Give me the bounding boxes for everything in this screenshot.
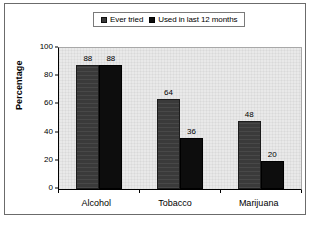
x-label-marijuana: Marijuana <box>239 198 279 208</box>
bar-marijuana-used-last-12-months[interactable]: 20 <box>261 161 284 189</box>
bar-value-marijuana-ever-tried: 48 <box>245 110 254 119</box>
bar-wrap-alcohol-used-last-12-months: 88 <box>99 48 122 189</box>
y-tick-label-60: 60 <box>44 99 53 107</box>
y-axis: Percentage 100 80 60 40 20 0 <box>5 40 58 198</box>
bar-wrap-tobacco-ever-tried: 64 <box>157 48 180 189</box>
legend-swatch-used-last-12-months <box>149 17 155 23</box>
y-tick-label-100: 100 <box>40 43 53 51</box>
y-axis-title: Percentage <box>14 60 24 110</box>
x-tick-mark-1 <box>139 190 140 193</box>
bar-marijuana-ever-tried[interactable]: 48 <box>238 121 261 189</box>
bar-wrap-marijuana-ever-tried: 48 <box>238 48 261 189</box>
bar-group-alcohol: 88 88 <box>76 48 122 189</box>
bar-group-marijuana: 48 20 <box>238 48 284 189</box>
bar-tobacco-used-last-12-months[interactable]: 36 <box>180 138 203 189</box>
y-tick-label-20: 20 <box>44 156 53 164</box>
bar-value-alcohol-used-last-12-months: 88 <box>106 54 115 63</box>
bar-alcohol-used-last-12-months[interactable]: 88 <box>99 65 122 189</box>
x-tick-mark-right <box>301 190 302 193</box>
bar-alcohol-ever-tried[interactable]: 88 <box>76 65 99 189</box>
bars-container: 88 88 64 36 <box>59 48 301 189</box>
bar-wrap-alcohol-ever-tried: 88 <box>76 48 99 189</box>
x-axis-labels: Alcohol Tobacco Marijuana <box>58 198 302 208</box>
legend-label-ever-tried: Ever tried <box>110 15 143 24</box>
bar-group-tobacco: 64 36 <box>157 48 203 189</box>
legend-swatch-ever-tried <box>101 17 107 23</box>
plot-area: 88 88 64 36 <box>58 47 302 190</box>
legend-entry-ever-tried[interactable]: Ever tried <box>101 15 143 24</box>
x-label-tobacco: Tobacco <box>158 198 192 208</box>
bar-value-marijuana-used-last-12-months: 20 <box>268 150 277 159</box>
x-tick-mark-left <box>58 190 59 193</box>
legend-entry-used-last-12-months[interactable]: Used in last 12 months <box>149 15 237 24</box>
legend-label-used-last-12-months: Used in last 12 months <box>158 15 237 24</box>
bar-tobacco-ever-tried[interactable]: 64 <box>157 99 180 189</box>
bar-wrap-tobacco-used-last-12-months: 36 <box>180 48 203 189</box>
bar-value-tobacco-ever-tried: 64 <box>164 88 173 97</box>
chart-frame: Ever tried Used in last 12 months Percen… <box>4 3 306 215</box>
chart-legend: Ever tried Used in last 12 months <box>93 12 245 27</box>
y-tick-label-40: 40 <box>44 128 53 136</box>
bar-value-alcohol-ever-tried: 88 <box>83 54 92 63</box>
bar-value-tobacco-used-last-12-months: 36 <box>187 127 196 136</box>
x-label-alcohol: Alcohol <box>82 198 112 208</box>
y-tick-label-80: 80 <box>44 71 53 79</box>
y-tick-label-0: 0 <box>49 184 53 192</box>
x-tick-mark-2 <box>220 190 221 193</box>
x-axis: Alcohol Tobacco Marijuana <box>58 190 302 214</box>
bar-wrap-marijuana-used-last-12-months: 20 <box>261 48 284 189</box>
